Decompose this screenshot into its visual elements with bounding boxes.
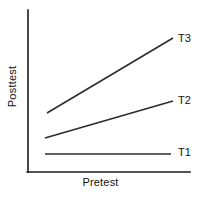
y-axis-label: Posttest	[8, 65, 19, 106]
series-line-t3	[47, 38, 173, 113]
plot-area	[0, 0, 201, 198]
series-line-t2	[45, 101, 173, 138]
series-label-t1: T1	[178, 147, 191, 158]
line-chart-figure: T3 T2 T1 Posttest Pretest	[0, 0, 201, 198]
series-label-t3: T3	[178, 33, 191, 44]
y-axis-label-wrap: Posttest	[0, 0, 26, 172]
series-label-t2: T2	[178, 95, 191, 106]
x-axis-label: Pretest	[0, 177, 201, 188]
